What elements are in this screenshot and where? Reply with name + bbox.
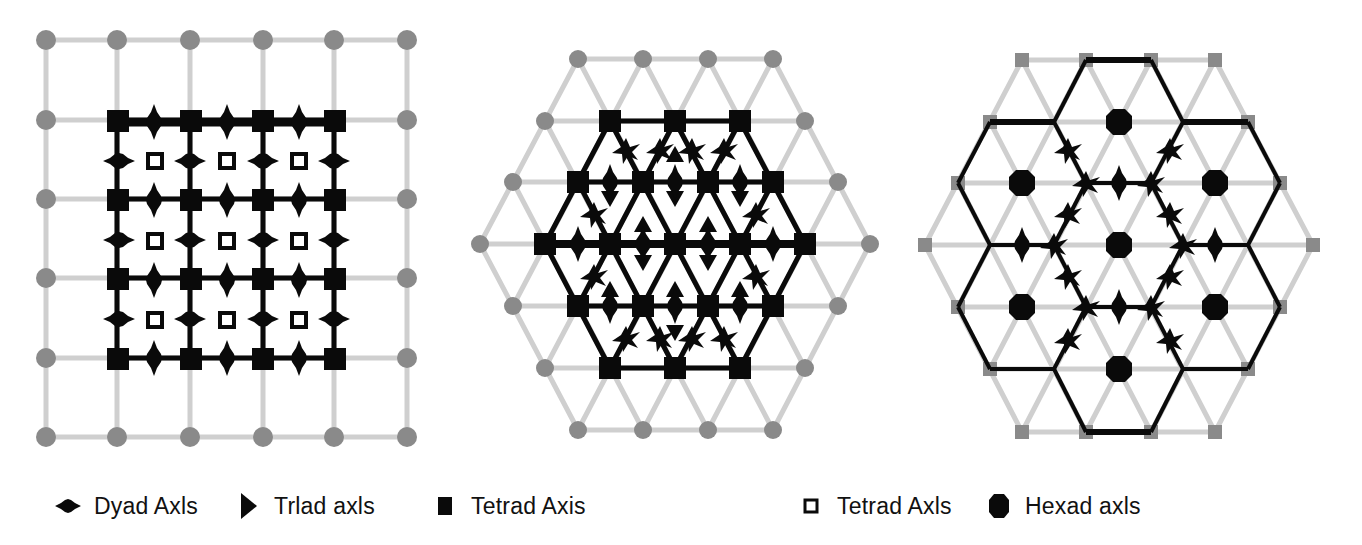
- dyad-axis-icon: [54, 492, 82, 520]
- legend-label: Dyad Axls: [94, 493, 198, 520]
- hexagonal-lattice-panel: [918, 53, 1320, 439]
- legend-item-dyad: Dyad Axls: [54, 484, 198, 528]
- crystal-symmetry-figure: [0, 0, 1362, 460]
- hexad-axis-icon: [985, 492, 1013, 520]
- legend-item-triad: Trlad axls: [234, 484, 375, 528]
- legend-label: Hexad axls: [1025, 493, 1141, 520]
- triangular-lattice-panel: [471, 50, 879, 439]
- tetrad-axis-solid-icon: [431, 492, 459, 520]
- legend-label: Tetrad Axis: [471, 493, 586, 520]
- legend: Dyad Axls Trlad axls Tetrad Axis Tetrad …: [0, 484, 1362, 528]
- square-lattice-panel: [36, 30, 417, 447]
- legend-item-tetrad-open: Tetrad Axls: [797, 484, 952, 528]
- tetrad-axis-open-icon: [797, 492, 825, 520]
- triad-axis-icon: [234, 492, 262, 520]
- legend-label: Trlad axls: [274, 493, 375, 520]
- legend-label: Tetrad Axls: [837, 493, 952, 520]
- legend-item-tetrad-solid: Tetrad Axis: [431, 484, 586, 528]
- legend-item-hexad: Hexad axls: [985, 484, 1141, 528]
